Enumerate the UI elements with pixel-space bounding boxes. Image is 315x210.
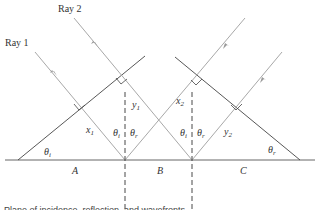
theta-i-2: θi [180, 127, 187, 140]
ray-1-incident [35, 52, 125, 160]
theta-i-1: θi [113, 127, 120, 140]
ray-2-label: Ray 2 [58, 3, 82, 14]
x1-label: x1 [85, 124, 94, 137]
region-b-label: B [157, 165, 163, 176]
region-a-label: A [71, 165, 79, 176]
ray-1-label: Ray 1 [5, 37, 29, 48]
ray-2-incident [74, 18, 192, 160]
y1-label: y1 [131, 99, 140, 112]
caption: Plane of incidence, reflection, and wave… [4, 205, 186, 210]
theta-r-1: θr [130, 127, 138, 140]
x2-label: x2 [175, 95, 184, 108]
region-c-label: C [240, 165, 247, 176]
reflection-diagram: Ray 1 Ray 2 x1 y1 x2 y2 θi θi θr θi θr θ… [0, 0, 315, 210]
arrow-icon [223, 43, 229, 49]
theta-r-right: θr [268, 144, 276, 157]
theta-r-2: θr [197, 127, 205, 140]
y2-label: y2 [223, 126, 232, 139]
theta-i-left: θi [44, 146, 51, 159]
